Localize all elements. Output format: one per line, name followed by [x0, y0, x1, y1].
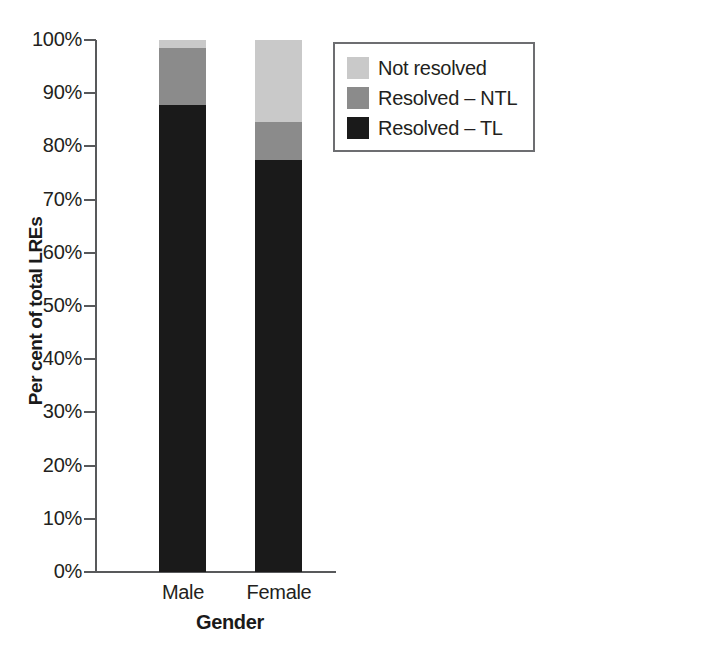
y-tick-label-wrap: 30% — [0, 401, 82, 421]
y-tick-mark — [84, 199, 96, 201]
y-tick-label-wrap: 20% — [0, 455, 82, 475]
y-tick-label-wrap: 70% — [0, 189, 82, 209]
y-tick-label-wrap: 40% — [0, 348, 82, 368]
y-tick-label: 0% — [4, 561, 82, 581]
y-tick-label: 70% — [4, 189, 82, 209]
chart-legend: Not resolvedResolved – NTLResolved – TL — [333, 42, 535, 152]
y-tick-mark — [84, 305, 96, 307]
y-tick-mark — [84, 465, 96, 467]
bar-segment — [159, 105, 206, 572]
legend-swatch-icon — [347, 117, 369, 139]
bar-segment — [159, 40, 206, 48]
y-tick-mark — [84, 571, 96, 573]
y-tick-label: 90% — [4, 82, 82, 102]
legend-item-label: Resolved – TL — [378, 117, 503, 139]
y-tick-label-wrap: 0% — [0, 561, 82, 581]
bar-segment — [159, 48, 206, 105]
legend-item-label: Not resolved — [378, 57, 487, 79]
y-tick-label: 20% — [4, 455, 82, 475]
y-tick-label: 30% — [4, 401, 82, 421]
y-tick-label-wrap: 90% — [0, 82, 82, 102]
y-tick-mark — [84, 92, 96, 94]
bar-segment — [255, 160, 302, 572]
y-tick-label: 10% — [4, 508, 82, 528]
bar-segment — [255, 40, 302, 122]
y-tick-label: 80% — [4, 135, 82, 155]
bar-segment — [255, 122, 302, 160]
legend-item[interactable]: Not resolved — [347, 53, 533, 83]
stacked-bar-chart: Per cent of total LREs 100%90%80%70%60%5… — [0, 0, 726, 646]
legend-swatch-icon — [347, 57, 369, 79]
x-axis-title: Gender — [110, 611, 350, 634]
y-tick-label: 100% — [4, 29, 82, 49]
y-tick-label-wrap: 100% — [0, 29, 82, 49]
y-tick-label: 40% — [4, 348, 82, 368]
bar-female — [255, 40, 302, 572]
y-tick-label-wrap: 10% — [0, 508, 82, 528]
x-tick-label-female: Female — [219, 581, 339, 604]
legend-swatch-icon — [347, 87, 369, 109]
y-tick-label-wrap: 50% — [0, 295, 82, 315]
y-tick-label: 50% — [4, 295, 82, 315]
y-tick-label-wrap: 60% — [0, 242, 82, 262]
y-tick-mark — [84, 358, 96, 360]
bar-male — [159, 40, 206, 572]
y-tick-label: 60% — [4, 242, 82, 262]
y-tick-mark — [84, 39, 96, 41]
legend-item-label: Resolved – NTL — [378, 87, 517, 109]
plot-area — [97, 40, 336, 572]
y-tick-label-wrap: 80% — [0, 135, 82, 155]
legend-item[interactable]: Resolved – NTL — [347, 83, 533, 113]
y-tick-mark — [84, 518, 96, 520]
legend-item[interactable]: Resolved – TL — [347, 113, 533, 143]
y-tick-mark — [84, 252, 96, 254]
y-tick-mark — [84, 411, 96, 413]
y-tick-mark — [84, 145, 96, 147]
